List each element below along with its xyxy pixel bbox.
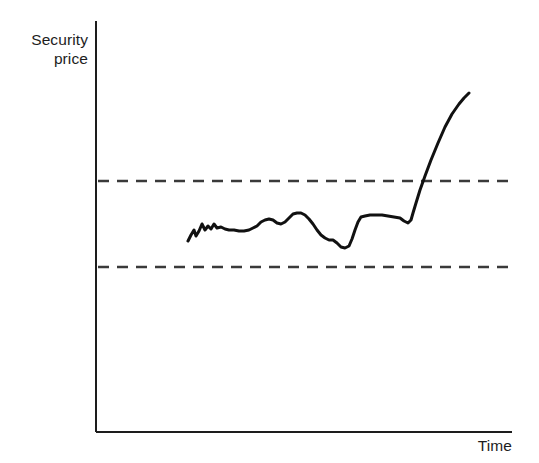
y-axis-label: Security price xyxy=(0,30,88,68)
chart-figure: Security price Time xyxy=(0,0,539,463)
annotations-group xyxy=(98,181,512,267)
series-line-security-price xyxy=(188,93,469,248)
chart-plot-area xyxy=(0,0,539,463)
axes-group xyxy=(96,21,512,432)
series-group xyxy=(188,93,469,248)
x-axis-label: Time xyxy=(420,436,512,455)
